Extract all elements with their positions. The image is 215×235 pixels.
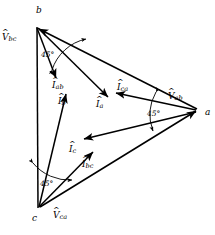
angle-label-a: 45° — [147, 110, 160, 118]
line-current-vector-a — [38, 28, 108, 97]
current-label-ab: ^Iab — [52, 81, 64, 91]
current-symbol-ibc: I — [82, 159, 86, 169]
line-current-subscript-ic: c — [73, 147, 77, 155]
diagram-canvas — [0, 0, 215, 235]
current-symbol-ica: I — [117, 82, 121, 92]
voltage-subscript-vca: ca — [60, 213, 68, 221]
current-vector-ca — [116, 93, 196, 110]
current-label-ca: ^Ica — [117, 83, 128, 93]
voltage-label-ab: ^Vab — [168, 92, 183, 102]
line-current-subscript-ib: b — [62, 99, 66, 107]
line-current-vector-b — [39, 94, 66, 207]
voltage-subscript-vbc: bc — [9, 35, 17, 43]
vertex-label-c: c — [32, 214, 37, 223]
line-current-label-b: ^Ib — [58, 97, 66, 107]
vertex-label-a: a — [205, 108, 210, 117]
voltage-label-bc: ^Vbc — [2, 33, 16, 43]
line-current-label-c: ^Ic — [69, 145, 76, 155]
vertex-label-b: b — [36, 6, 42, 15]
line-current-symbol-ia: I — [96, 99, 100, 109]
angle-label-c: 45° — [40, 180, 53, 188]
voltage-vector-ca — [40, 111, 196, 207]
triangle-side-bc — [37, 27, 38, 208]
angle-label-b: 45° — [41, 51, 54, 59]
phasor-diagram: b a c ^Vbc ^Vab ^Vca ^Iab ^Ibc ^Ica ^Ia … — [0, 0, 215, 235]
line-current-symbol-ic: I — [69, 144, 73, 154]
line-current-subscript-ia: a — [100, 102, 104, 110]
current-label-bc: ^Ibc — [82, 160, 93, 170]
line-current-symbol-ib: I — [58, 96, 62, 106]
voltage-symbol-vca: V — [53, 210, 60, 220]
voltage-symbol-vab: V — [168, 91, 175, 101]
current-subscript-ica: ca — [121, 85, 129, 93]
angle-arc-c — [33, 163, 72, 180]
current-symbol-iab: I — [52, 80, 56, 90]
voltage-symbol-vbc: V — [2, 32, 9, 42]
current-subscript-ibc: bc — [86, 162, 94, 170]
voltage-subscript-vab: ab — [175, 94, 183, 102]
line-current-label-a: ^Ia — [96, 100, 103, 110]
voltage-label-ca: ^Vca — [53, 211, 67, 221]
line-current-vector-c — [84, 112, 196, 139]
